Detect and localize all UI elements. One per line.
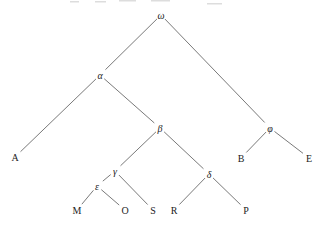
- tree-figure: ωαφβγδεABEMOSRP: [0, 0, 323, 228]
- tree-edge-epsilon-M: [82, 191, 93, 204]
- tree-node-label-M: M: [73, 205, 82, 216]
- tree-node-label-B: B: [238, 153, 245, 164]
- tree-edge-alpha-beta: [105, 79, 155, 123]
- tree-node-label-gamma: γ: [113, 166, 118, 177]
- tree-node-label-beta: β: [157, 123, 163, 134]
- tree-node-label-R: R: [171, 205, 178, 216]
- tree-node-label-delta: δ: [207, 169, 212, 180]
- tree-edge-delta-R: [180, 178, 205, 204]
- tree-node-label-S: S: [150, 205, 156, 216]
- cutoff-text-remnant: [70, 1, 79, 3]
- tree-node-label-alpha: α: [97, 70, 103, 81]
- cutoff-text-remnant: [95, 1, 106, 3]
- tree-edge-phi-B: [247, 132, 266, 152]
- tree-edge-gamma-epsilon: [103, 175, 110, 181]
- tree-edge-phi-E: [275, 132, 303, 153]
- tree-node-label-P: P: [243, 205, 249, 216]
- tree-node-label-E: E: [306, 153, 312, 164]
- tree-edge-delta-P: [213, 178, 240, 204]
- tree-edge-omega-phi: [165, 19, 264, 122]
- tree-node-label-epsilon: ε: [95, 181, 99, 192]
- tree-edge-gamma-S: [119, 175, 147, 204]
- tree-edge-alpha-A: [21, 79, 96, 151]
- tree-node-label-O: O: [121, 205, 128, 216]
- cutoff-text-remnant: [119, 0, 136, 2]
- tree-edge-beta-delta: [164, 132, 203, 168]
- tree-edge-beta-gamma: [121, 132, 156, 165]
- cutoff-text-remnant: [207, 3, 222, 5]
- tree-diagram: ωαφβγδεABEMOSRP: [0, 0, 323, 228]
- tree-edge-epsilon-O: [102, 190, 119, 205]
- tree-node-label-A: A: [11, 152, 19, 163]
- tree-edge-omega-alpha: [106, 19, 157, 69]
- cutoff-text-remnant: [151, 0, 170, 2]
- tree-node-label-omega: ω: [157, 10, 164, 21]
- tree-node-label-phi: φ: [267, 123, 273, 134]
